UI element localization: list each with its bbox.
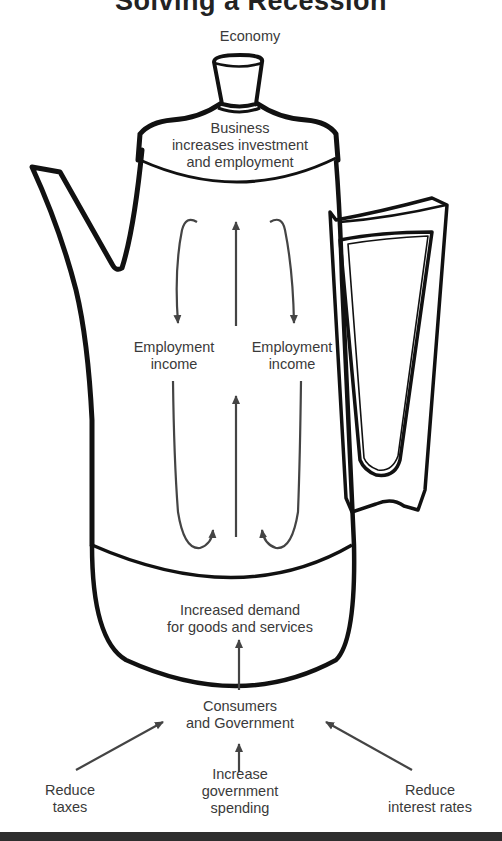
arrow-left-top	[177, 220, 197, 323]
arrow-left-bottom	[173, 381, 213, 548]
arrow-right-top	[270, 220, 294, 323]
arrow-reduce-rates	[326, 722, 412, 770]
bottom-dark-band	[0, 832, 502, 841]
employment-income-left: Employment income	[122, 339, 226, 373]
increased-demand-label: Increased demand for goods and services	[140, 602, 340, 636]
reduce-interest-rates-label: Reduce interest rates	[370, 782, 490, 816]
reduce-taxes-label: Reduce taxes	[30, 782, 110, 816]
demand-line-2: for goods and services	[140, 619, 340, 636]
employment-income-right: Employment income	[240, 339, 344, 373]
increase-spending-line-1: Increase	[180, 766, 300, 783]
economy-label: Economy	[190, 28, 310, 45]
employment-income-left-line-1: Employment	[122, 339, 226, 356]
increase-spending-label: Increase government spending	[180, 766, 300, 817]
reduce-taxes-line-1: Reduce	[30, 782, 110, 799]
consumers-line-1: Consumers	[160, 698, 320, 715]
circulation-arrows	[76, 220, 412, 772]
base-band-top	[92, 545, 352, 578]
consumers-government-label: Consumers and Government	[160, 698, 320, 732]
reduce-rates-line-2: interest rates	[370, 799, 490, 816]
business-line-3: and employment	[140, 154, 340, 171]
arrow-reduce-taxes	[76, 722, 163, 770]
reduce-rates-line-1: Reduce	[370, 782, 490, 799]
employment-income-right-line-1: Employment	[240, 339, 344, 356]
employment-income-left-line-2: income	[122, 356, 226, 373]
reduce-taxes-line-2: taxes	[30, 799, 110, 816]
increase-spending-line-2: government	[180, 783, 300, 800]
increase-spending-line-3: spending	[180, 800, 300, 817]
demand-line-1: Increased demand	[140, 602, 340, 619]
consumers-line-2: and Government	[160, 715, 320, 732]
employment-income-right-line-2: income	[240, 356, 344, 373]
arrow-right-bottom	[262, 381, 301, 548]
business-line-2: increases investment	[140, 137, 340, 154]
business-label: Business increases investment and employ…	[140, 120, 340, 171]
business-line-1: Business	[140, 120, 340, 137]
